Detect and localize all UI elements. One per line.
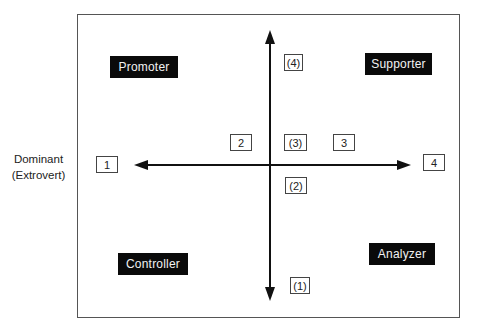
quadrant-label-controller: Controller [118, 253, 188, 275]
marker-vertical-2: (2) [285, 177, 307, 194]
marker-horizontal-2: 2 [230, 134, 252, 151]
arrow-down-icon [265, 287, 275, 301]
marker-horizontal-1: 1 [96, 156, 118, 173]
side-label-line1: Dominant [0, 151, 77, 167]
marker-horizontal-3: 3 [333, 134, 355, 151]
side-label-dominant: Dominant (Extrovert) [0, 151, 77, 183]
side-label-line2: (Extrovert) [0, 167, 77, 183]
marker-vertical-1: (1) [290, 277, 310, 294]
quadrant-label-analyzer: Analyzer [369, 243, 435, 265]
marker-vertical-4: (4) [284, 54, 303, 71]
marker-horizontal-4: 4 [423, 154, 445, 171]
arrow-left-icon [134, 160, 148, 170]
quadrant-label-supporter: Supporter [365, 53, 432, 75]
arrow-right-icon [397, 160, 411, 170]
horizontal-axis [134, 160, 411, 170]
quadrant-label-promoter: Promoter [110, 56, 178, 78]
arrow-up-icon [265, 30, 275, 44]
marker-vertical-3: (3) [284, 134, 307, 151]
